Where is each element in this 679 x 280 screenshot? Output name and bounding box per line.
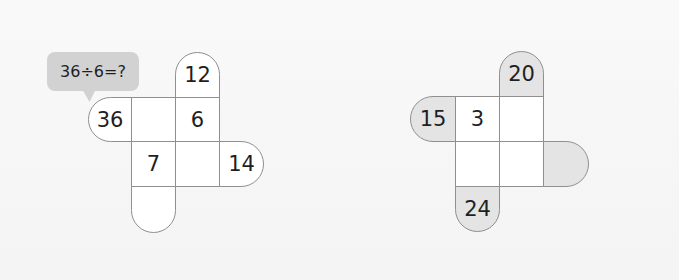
bottom-tab-cell: 24 (455, 186, 500, 232)
grid-cell-r2c2[interactable] (499, 141, 544, 187)
hint-text: 36÷6=? (60, 62, 126, 81)
left-tab-cell: 36 (88, 97, 132, 142)
grid-cell-r2c1[interactable] (455, 141, 500, 187)
left-tab-cell: 15 (410, 96, 456, 142)
top-tab-cell: 12 (175, 52, 220, 98)
hint-speech-bubble: 36÷6=? (47, 52, 139, 91)
grid-cell-r1c1[interactable]: 3 (455, 96, 500, 142)
grid-cell-r1c2[interactable] (499, 96, 544, 142)
grid-cell-r2c2[interactable] (175, 141, 220, 187)
right-tab-cell: 14 (219, 141, 264, 187)
grid-cell-r1c2[interactable]: 6 (175, 97, 220, 142)
bottom-tab-cell[interactable] (131, 186, 176, 233)
grid-cell-r2c1[interactable]: 7 (131, 141, 176, 187)
top-tab-cell: 20 (499, 51, 544, 97)
right-tab-cell[interactable] (543, 141, 589, 187)
grid-cell-r1c1[interactable] (131, 97, 176, 142)
